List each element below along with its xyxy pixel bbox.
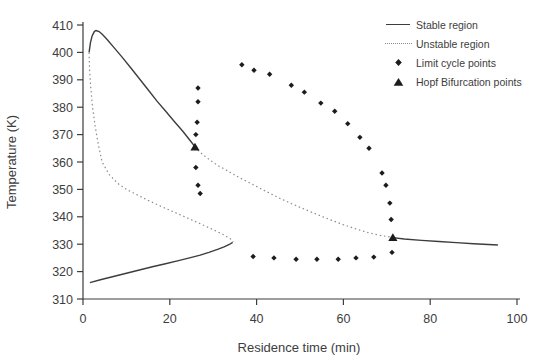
stable-line-sample-icon bbox=[380, 24, 416, 25]
x-tick-label: 60 bbox=[336, 312, 350, 326]
limit-cycle-point bbox=[387, 200, 392, 205]
limit-cycle-point bbox=[366, 146, 371, 151]
diamond-marker-icon bbox=[380, 58, 416, 67]
y-tick-label: 320 bbox=[52, 265, 73, 279]
bifurcation-diagram-figure: 3103203303403503603703803904004100204060… bbox=[0, 0, 556, 363]
unstable-region-line bbox=[89, 52, 233, 242]
legend-label-stable-region: Stable region bbox=[416, 19, 478, 31]
limit-cycle-point bbox=[389, 250, 394, 255]
y-tick-label: 370 bbox=[52, 128, 73, 142]
limit-cycle-point bbox=[193, 132, 198, 137]
limit-cycle-point bbox=[302, 89, 307, 94]
limit-cycle-point bbox=[239, 62, 244, 67]
y-tick-label: 380 bbox=[52, 101, 73, 115]
dotted-line-sample-icon bbox=[380, 43, 416, 44]
y-tick-label: 310 bbox=[52, 293, 73, 307]
limit-cycle-point bbox=[318, 100, 323, 105]
limit-cycle-point bbox=[193, 165, 198, 170]
limit-cycle-point bbox=[357, 135, 362, 140]
legend-label-limit-cycle: Limit cycle points bbox=[416, 57, 496, 69]
limit-cycle-point bbox=[271, 255, 276, 260]
legend-item-hopf: Hopf Bifurcation points bbox=[380, 72, 522, 91]
limit-cycle-point bbox=[332, 109, 337, 114]
y-tick-label: 360 bbox=[52, 156, 73, 170]
limit-cycle-point bbox=[379, 170, 384, 175]
limit-cycle-point bbox=[371, 254, 376, 259]
limit-cycle-point bbox=[314, 257, 319, 262]
x-tick-label: 0 bbox=[80, 312, 87, 326]
y-tick-label: 400 bbox=[52, 46, 73, 60]
limit-cycle-point bbox=[195, 99, 200, 104]
stable-region-line bbox=[89, 31, 195, 147]
y-tick-label: 340 bbox=[52, 210, 73, 224]
limit-cycle-point bbox=[388, 217, 393, 222]
x-tick-label: 40 bbox=[250, 312, 264, 326]
y-tick-label: 350 bbox=[52, 183, 73, 197]
limit-cycle-point bbox=[251, 68, 256, 73]
limit-cycle-point bbox=[267, 72, 272, 77]
y-tick-label: 330 bbox=[52, 238, 73, 252]
y-tick-label: 410 bbox=[52, 19, 73, 33]
limit-cycle-point bbox=[345, 121, 350, 126]
stable-region-line bbox=[393, 238, 498, 245]
x-tick-label: 20 bbox=[163, 312, 177, 326]
x-tick-label: 100 bbox=[507, 312, 528, 326]
limit-cycle-point bbox=[195, 85, 200, 90]
stable-region-line bbox=[90, 242, 233, 282]
limit-cycle-point bbox=[195, 183, 200, 188]
limit-cycle-point bbox=[194, 120, 199, 125]
y-tick-label: 390 bbox=[52, 73, 73, 87]
triangle-marker-icon bbox=[380, 77, 416, 87]
limit-cycle-point bbox=[197, 191, 202, 196]
hopf-bifurcation-point bbox=[388, 233, 397, 241]
x-tick-label: 80 bbox=[423, 312, 437, 326]
limit-cycle-point bbox=[353, 255, 358, 260]
legend-item-unstable-region: Unstable region bbox=[380, 34, 522, 53]
limit-cycle-point bbox=[335, 257, 340, 262]
legend-item-stable-region: Stable region bbox=[380, 15, 522, 34]
y-axis-title: Temperature (K) bbox=[4, 115, 19, 209]
legend-item-limit-cycle: Limit cycle points bbox=[380, 53, 522, 72]
limit-cycle-point bbox=[250, 254, 255, 259]
legend-label-hopf: Hopf Bifurcation points bbox=[416, 76, 522, 88]
legend: Stable region Unstable region Limit cycl… bbox=[380, 15, 522, 91]
unstable-region-line bbox=[195, 147, 393, 238]
x-axis-title: Residence time (min) bbox=[238, 340, 361, 355]
hopf-bifurcation-point bbox=[190, 143, 199, 151]
limit-cycle-point bbox=[293, 257, 298, 262]
limit-cycle-point bbox=[289, 83, 294, 88]
limit-cycle-point bbox=[383, 183, 388, 188]
legend-label-unstable-region: Unstable region bbox=[416, 38, 490, 50]
